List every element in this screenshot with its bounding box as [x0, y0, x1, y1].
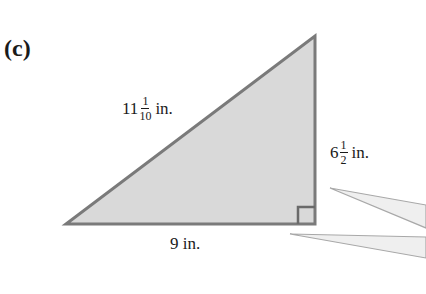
- hypotenuse-denominator: 10: [139, 109, 151, 122]
- hypotenuse-fraction: 1 10: [139, 95, 151, 122]
- height-unit: in.: [352, 143, 369, 163]
- height-fraction: 1 2: [340, 139, 348, 166]
- base-label: 9 in.: [170, 234, 200, 254]
- hypotenuse-whole: 11: [122, 99, 138, 119]
- height-denominator: 2: [341, 153, 347, 166]
- height-whole: 6: [330, 143, 339, 163]
- hypotenuse-unit: in.: [155, 99, 172, 119]
- pointer-wedge-lower: [290, 234, 426, 258]
- height-numerator: 1: [340, 139, 348, 153]
- height-label: 6 1 2 in.: [330, 139, 369, 166]
- right-triangle: [66, 36, 315, 224]
- pointer-wedge-upper: [330, 188, 426, 228]
- part-label: (c): [4, 35, 31, 62]
- hypotenuse-label: 11 1 10 in.: [122, 95, 173, 122]
- hypotenuse-numerator: 1: [141, 95, 149, 109]
